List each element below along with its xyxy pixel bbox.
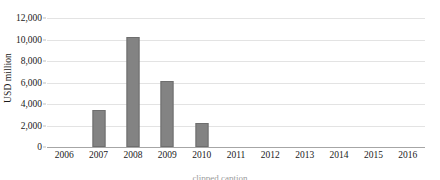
y-tick-mark [43, 18, 46, 19]
x-tick-label: 2006 [55, 150, 74, 160]
x-tick-label: 2010 [192, 150, 211, 160]
y-tick-label: 10,000 [16, 35, 42, 45]
x-tick-label: 2007 [89, 150, 108, 160]
y-tick-mark [43, 82, 46, 83]
x-tick-label: 2008 [123, 150, 142, 160]
bar-slot [253, 18, 287, 147]
bar-slot [47, 18, 81, 147]
bar[interactable] [161, 81, 174, 147]
x-tick-label: 2014 [330, 150, 349, 160]
y-tick-label: 0 [37, 142, 42, 152]
figure-caption-text: clipped caption [0, 173, 440, 180]
y-tick-mark [43, 61, 46, 62]
bar-chart-figure: USD million 02,0004,0006,0008,00010,0001… [0, 0, 440, 180]
x-tick-label: 2012 [261, 150, 280, 160]
bar-slot [184, 18, 218, 147]
bar-slot [81, 18, 115, 147]
x-axis-labels: 2006200720082009201020112012201320142015… [47, 150, 425, 164]
figure-caption-clipped: clipped caption [0, 173, 440, 180]
y-tick-label: 8,000 [21, 56, 42, 66]
bar[interactable] [195, 123, 208, 147]
y-tick-mark [43, 39, 46, 40]
x-tick-label: 2015 [364, 150, 383, 160]
x-tick-label: 2016 [398, 150, 417, 160]
bar-slot [116, 18, 150, 147]
bars-layer [47, 18, 425, 147]
y-tick-label: 2,000 [21, 121, 42, 131]
x-tick-label: 2011 [227, 150, 246, 160]
bar-slot [288, 18, 322, 147]
y-axis-title: USD million [0, 0, 16, 155]
y-tick-label: 6,000 [21, 78, 42, 88]
y-tick-mark [43, 104, 46, 105]
y-axis-title-label: USD million [3, 53, 13, 103]
axis-baseline [47, 147, 425, 148]
bar-slot [356, 18, 390, 147]
y-tick-mark [43, 125, 46, 126]
y-tick-label: 4,000 [21, 99, 42, 109]
x-tick-label: 2009 [158, 150, 177, 160]
bar-slot [391, 18, 425, 147]
bar-slot [150, 18, 184, 147]
y-tick-label: 12,000 [16, 13, 42, 23]
x-tick-label: 2013 [295, 150, 314, 160]
bar-slot [322, 18, 356, 147]
y-tick-mark [43, 147, 46, 148]
bar[interactable] [126, 37, 139, 147]
bar-slot [219, 18, 253, 147]
bar[interactable] [92, 110, 105, 147]
